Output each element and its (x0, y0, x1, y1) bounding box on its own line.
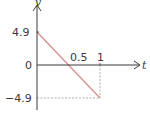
y-tick-bottom: −4.9 (5, 92, 32, 105)
y-axis-label: v (35, 0, 42, 9)
x-tick-half: 0.5 (70, 51, 88, 64)
velocity-time-graph: v t 4.9 0 −4.9 0.5 1 (0, 0, 150, 120)
x-tick-one: 1 (97, 51, 104, 64)
origin-label: 0 (25, 59, 32, 72)
x-axis-label: t (142, 59, 147, 72)
y-tick-top: 4.9 (12, 26, 30, 39)
